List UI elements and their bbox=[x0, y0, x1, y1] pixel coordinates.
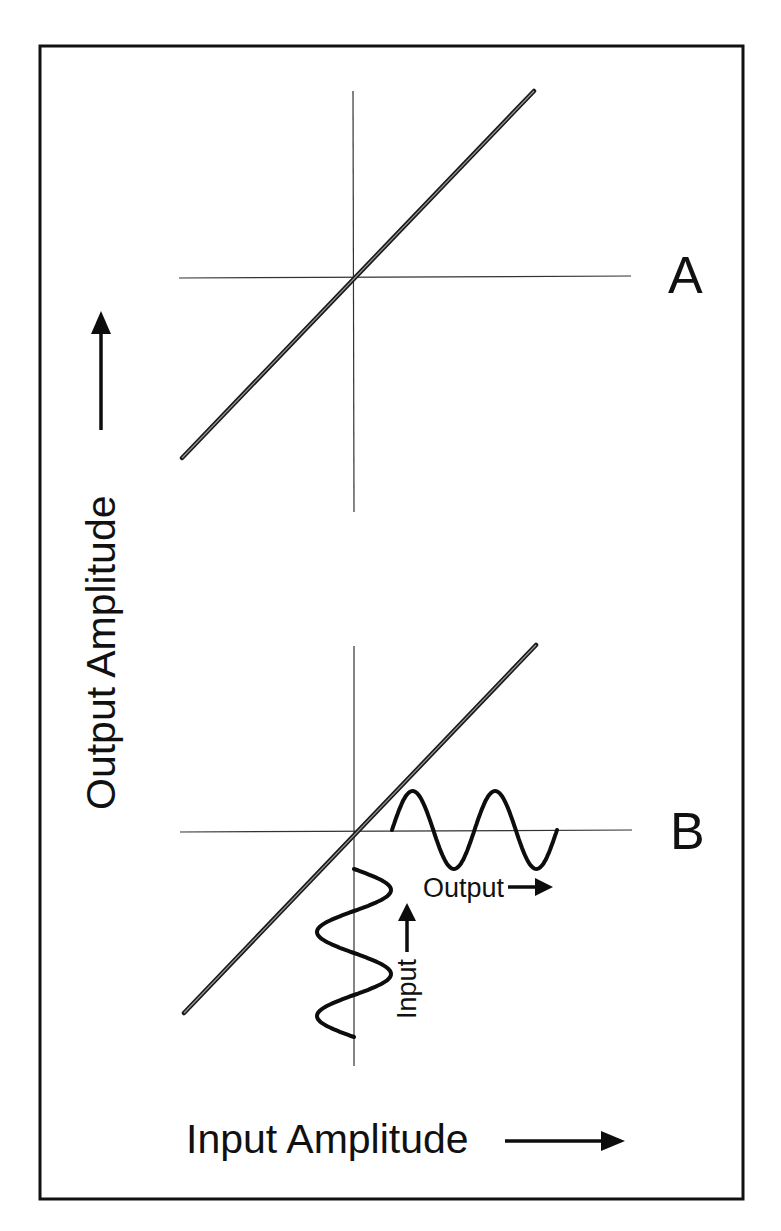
panel-a-label: A bbox=[668, 246, 703, 304]
x-axis-arrow-icon bbox=[505, 1131, 625, 1151]
figure: A Output Input B Output Amplitude bbox=[0, 0, 781, 1231]
x-axis-title-group: Input Amplitude bbox=[186, 1116, 625, 1162]
panel-b: Output Input B bbox=[180, 645, 705, 1066]
panel-b-horizontal-axis bbox=[180, 830, 632, 832]
panel-a-vertical-axis bbox=[353, 91, 354, 512]
input-wave-label: Input bbox=[392, 958, 422, 1019]
y-axis-arrow-icon bbox=[91, 311, 111, 430]
y-axis-title: Output Amplitude bbox=[78, 495, 124, 810]
panel-a-transfer-line-highlight bbox=[182, 91, 534, 458]
y-axis-title-group: Output Amplitude bbox=[78, 311, 124, 810]
panel-a-horizontal-axis bbox=[179, 276, 631, 278]
output-wave-label: Output bbox=[423, 873, 505, 903]
output-arrow-icon bbox=[508, 878, 553, 896]
panel-a: A bbox=[179, 91, 703, 512]
panel-b-label: B bbox=[670, 802, 705, 860]
figure-frame bbox=[40, 46, 743, 1199]
input-arrow-icon bbox=[398, 903, 416, 952]
panel-b-transfer-line-highlight bbox=[184, 645, 536, 1013]
x-axis-title: Input Amplitude bbox=[186, 1116, 469, 1162]
